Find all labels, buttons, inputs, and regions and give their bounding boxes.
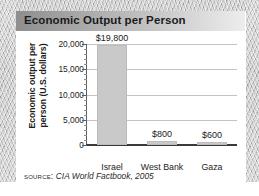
y-axis-tick-label: 20,000 (58, 39, 84, 49)
bar (147, 141, 177, 145)
x-axis-category-label: Gaza (201, 162, 222, 172)
y-axis-title-line-1: Economic output per (27, 30, 38, 142)
y-axis-major-tick (82, 95, 87, 96)
page-texture-right (246, 0, 259, 196)
bar (197, 142, 227, 146)
chart-figure: Economic Output per Person Economic outp… (0, 0, 259, 196)
bar (97, 45, 127, 145)
chart-title-bar: Economic Output per Person (16, 11, 245, 31)
y-axis-tick-label: 15,000 (58, 64, 84, 74)
y-axis-minor-tick (84, 130, 87, 131)
chart-title: Economic Output per Person (24, 14, 186, 26)
y-axis-minor-tick (84, 125, 87, 126)
y-axis-tick-labels: 05,00010,00015,00020,000 (44, 31, 84, 168)
page-texture-top (0, 0, 259, 11)
page-texture-left (0, 0, 16, 196)
y-axis-minor-tick (84, 59, 87, 60)
y-axis-major-tick (82, 120, 87, 121)
y-axis-minor-tick (84, 64, 87, 65)
y-axis-tick-label: 10,000 (58, 90, 84, 100)
bar-value-label: $19,800 (96, 33, 129, 43)
bar-value-label: $800 (152, 129, 172, 139)
source-citation: CIA World Factbook, 2005 (56, 171, 154, 181)
y-axis-minor-tick (84, 115, 87, 116)
y-axis-minor-tick (84, 105, 87, 106)
bar-value-label: $600 (202, 130, 222, 140)
plot-canvas: $19,800Israel$800West Bank$600Gaza (87, 44, 237, 145)
chart-plot-area: Economic output per person (U.S. dollars… (16, 31, 245, 168)
y-axis-tick-label: 5,000 (63, 115, 84, 125)
y-axis-minor-tick (84, 140, 87, 141)
source-label: SOURCE: (24, 171, 54, 181)
y-axis-major-tick (82, 44, 87, 45)
chart-card: Economic Output per Person Economic outp… (16, 11, 245, 187)
y-axis-minor-tick (84, 89, 87, 90)
y-axis-minor-tick (84, 54, 87, 55)
y-axis-minor-tick (84, 79, 87, 80)
y-axis-major-tick (82, 69, 87, 70)
y-axis-major-tick (82, 145, 87, 146)
source-note: SOURCE: CIA World Factbook, 2005 (24, 171, 154, 181)
y-axis-minor-tick (84, 49, 87, 50)
y-axis-minor-tick (84, 110, 87, 111)
y-axis-minor-tick (84, 84, 87, 85)
y-axis-minor-tick (84, 135, 87, 136)
y-axis-minor-tick (84, 100, 87, 101)
y-axis-minor-tick (84, 74, 87, 75)
